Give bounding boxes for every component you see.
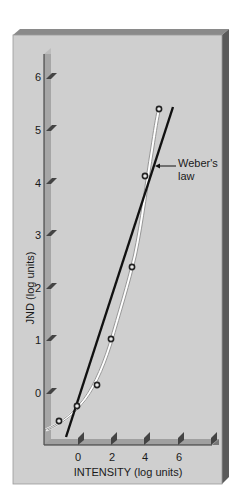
board-top-edge: [13, 29, 229, 35]
y-tick-label: 4: [35, 177, 41, 189]
annotation-weber: Weber's: [178, 157, 218, 169]
y-tick-label: 6: [35, 71, 41, 83]
x-tick-label: 6: [176, 451, 182, 463]
annotation-law: law: [178, 170, 195, 182]
y-tick-label: 0: [35, 387, 41, 399]
y-tick-label: 5: [35, 124, 41, 136]
x-tick-label: 2: [109, 451, 115, 463]
x-axis-title: INTENSITY (log units): [74, 466, 183, 478]
x-tick-label: 0: [75, 451, 81, 463]
y-axis-title: JND (log units): [24, 252, 36, 325]
y-tick-label: 3: [35, 229, 41, 241]
board-side-edge: [222, 29, 229, 484]
x-axis-bar: [44, 439, 219, 445]
y-axis-bar: [44, 54, 51, 445]
chart: 6 5 4 3 2 1 0 0 2 4 6 INTENSITY (log uni…: [0, 0, 242, 504]
y-tick-label: 1: [35, 334, 41, 346]
x-tick-label: 4: [142, 451, 148, 463]
